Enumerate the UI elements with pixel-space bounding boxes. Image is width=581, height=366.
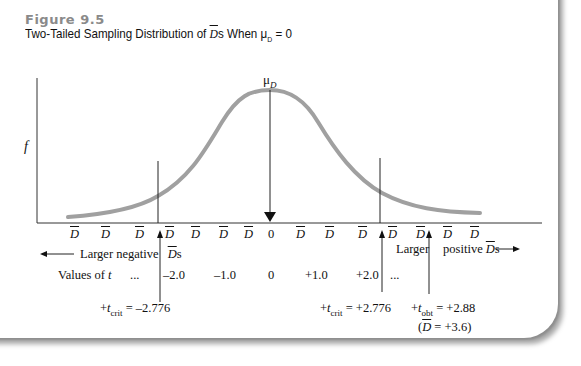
d-obtained: (D = +3.6) bbox=[418, 320, 471, 335]
arrow-up-icon bbox=[157, 230, 163, 238]
larger-negative-label: Larger negative Ds bbox=[80, 247, 182, 262]
x-tick: D bbox=[219, 227, 228, 242]
t-value: –1.0 bbox=[214, 268, 236, 283]
x-tick: D bbox=[358, 227, 367, 242]
arrow-up-icon bbox=[379, 230, 385, 238]
y-axis-label: f bbox=[24, 139, 28, 155]
distribution-plot bbox=[0, 0, 581, 366]
t-value: ... bbox=[390, 268, 399, 283]
distribution-curve bbox=[68, 90, 480, 217]
mu-arrow-icon bbox=[264, 212, 276, 222]
x-tick-zero: 0 bbox=[268, 227, 274, 242]
x-tick: D bbox=[443, 227, 452, 242]
t-value: 0 bbox=[268, 268, 274, 283]
larger-positive-label: Largerpositive Ds bbox=[396, 242, 500, 257]
arrow-right-icon bbox=[513, 246, 520, 252]
arrow-up-icon bbox=[426, 230, 432, 238]
t-value: +1.0 bbox=[305, 268, 328, 283]
x-tick: D bbox=[296, 227, 305, 242]
x-tick: D bbox=[70, 227, 79, 242]
x-tick: D bbox=[101, 227, 110, 242]
t-value: –2.0 bbox=[163, 268, 185, 283]
x-tick: D bbox=[470, 227, 479, 242]
mu-label: μD bbox=[263, 72, 276, 90]
t-value: ... bbox=[130, 268, 139, 283]
x-tick: D bbox=[416, 227, 425, 242]
values-of-t-label: Values of t bbox=[58, 268, 111, 283]
arrow-left-icon bbox=[40, 251, 47, 257]
x-tick: D bbox=[325, 227, 334, 242]
t-obtained: +tobt = +2.88 bbox=[411, 301, 475, 318]
x-tick: D bbox=[388, 227, 397, 242]
x-tick: D bbox=[165, 227, 174, 242]
x-tick: D bbox=[191, 227, 200, 242]
t-crit-negative: +tcrit = –2.776 bbox=[100, 301, 170, 318]
x-tick: D bbox=[244, 227, 253, 242]
t-value: +2.0 bbox=[356, 268, 379, 283]
x-tick: D bbox=[135, 227, 144, 242]
t-crit-positive: +tcrit = +2.776 bbox=[320, 301, 391, 318]
